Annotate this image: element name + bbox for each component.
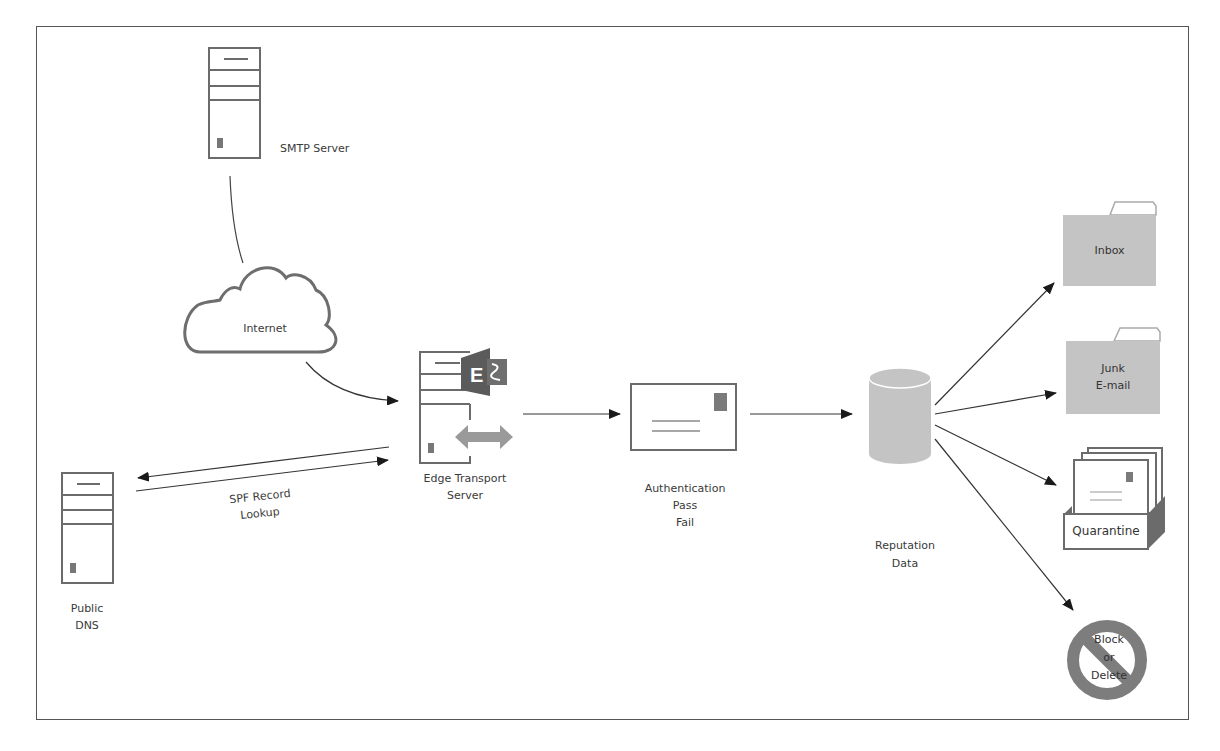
reputation-label-line1: Reputation — [855, 537, 955, 554]
block-label-line1: Block — [1077, 632, 1141, 648]
public-dns-label-line1: Public — [47, 600, 127, 617]
cloud-icon — [185, 268, 336, 352]
auth-label-line2: Pass — [625, 497, 745, 514]
auth-label-line3: Fail — [625, 514, 745, 531]
diagram-canvas: E — [0, 0, 1220, 751]
quarantine-label: Quarantine — [1064, 523, 1148, 539]
junk-label-line1: Junk — [1066, 361, 1160, 377]
reputation-label-line2: Data — [855, 555, 955, 572]
edge-reputation-to-junk — [935, 393, 1056, 414]
edge-edge-to-dns — [138, 447, 389, 478]
edge-smtp-internet — [230, 176, 243, 263]
edge-reputation-to-quarantine — [935, 425, 1056, 485]
edge-reputation-to-block — [935, 439, 1073, 610]
svg-text:E: E — [470, 364, 483, 386]
edge-internet-edge-transport — [306, 362, 398, 401]
public-dns-server-icon — [62, 473, 113, 583]
block-label-line3: Delete — [1077, 668, 1141, 684]
database-cylinder-icon — [869, 368, 931, 464]
edge-reputation-to-inbox — [935, 283, 1054, 405]
internet-label: Internet — [235, 320, 295, 337]
junk-label-line2: E-mail — [1066, 378, 1160, 394]
exchange-edge-server-icon: E — [420, 348, 513, 463]
auth-label-line1: Authentication — [625, 480, 745, 497]
edge-transport-label-line1: Edge Transport — [405, 470, 525, 487]
public-dns-label-line2: DNS — [47, 617, 127, 634]
inbox-label: Inbox — [1063, 243, 1156, 259]
envelope-icon — [631, 384, 736, 450]
block-label-line2: or — [1077, 650, 1141, 666]
smtp-server-icon — [209, 48, 260, 158]
edge-transport-label-line2: Server — [405, 487, 525, 504]
smtp-server-label: SMTP Server — [280, 140, 349, 157]
edge-dns-to-edge — [136, 460, 388, 491]
